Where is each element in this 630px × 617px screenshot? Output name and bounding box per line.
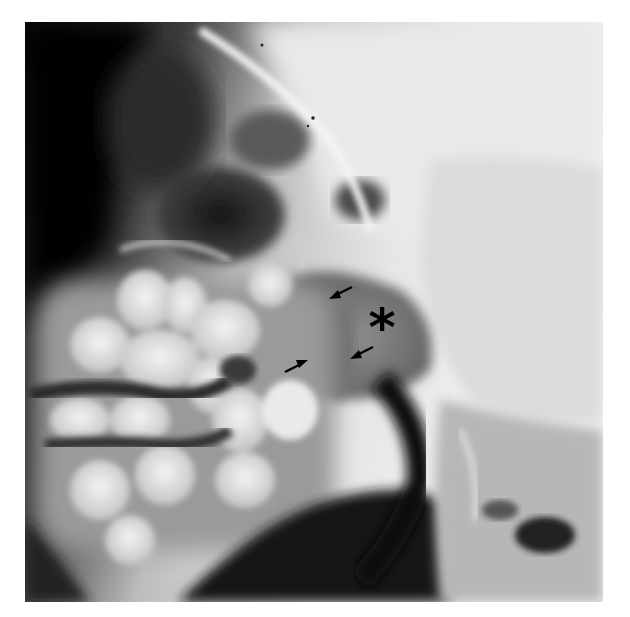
radiograph-image: *	[25, 22, 603, 602]
asterisk-marker: *	[368, 297, 395, 357]
radiograph-svg: *	[25, 22, 603, 602]
